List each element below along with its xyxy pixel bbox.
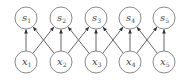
- nodes-group: s1s2s3s4s5x1x2x3x4x5: [15, 7, 175, 73]
- edges-group: [26, 27, 164, 53]
- node-s2: s2: [50, 7, 72, 29]
- node-x5: x5: [153, 51, 175, 73]
- node-x1: x1: [15, 51, 37, 73]
- node-s3: s3: [85, 7, 107, 29]
- node-s1: s1: [15, 7, 37, 29]
- node-s5: s5: [153, 7, 175, 29]
- node-x2: x2: [50, 51, 72, 73]
- bipartite-diagram: s1s2s3s4s5x1x2x3x4x5: [0, 0, 183, 80]
- node-x4: x4: [119, 51, 141, 73]
- node-x3: x3: [85, 51, 107, 73]
- node-s4: s4: [119, 7, 141, 29]
